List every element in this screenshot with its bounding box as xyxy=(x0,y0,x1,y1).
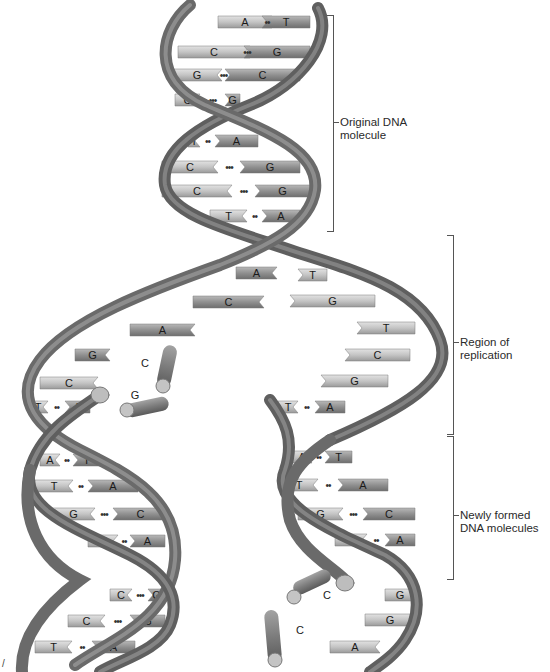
svg-text:G: G xyxy=(328,295,337,307)
original-base-1-right: G xyxy=(244,46,310,58)
svg-text:T: T xyxy=(383,322,390,334)
svg-text:C: C xyxy=(117,589,125,601)
hydrogen-bonds: •• xyxy=(304,402,311,413)
replication-left-base-1: C xyxy=(193,296,264,308)
newly-formed-bracket xyxy=(447,436,454,580)
svg-text:C: C xyxy=(259,69,267,81)
hydrogen-bonds: ••• xyxy=(136,590,145,601)
replication-left-base-0: A xyxy=(236,267,277,279)
free-nucleotide-label-2: C xyxy=(323,589,331,601)
hydrogen-bonds: •• xyxy=(252,211,259,222)
replication-left-base-3: G xyxy=(75,349,110,361)
svg-text:G: G xyxy=(266,161,275,173)
replication-right-base-2: T xyxy=(357,322,415,334)
svg-text:C: C xyxy=(210,46,218,58)
newly-formed-label-line2: DNA molecules xyxy=(460,522,539,535)
svg-text:T: T xyxy=(285,401,292,413)
free-nucleotide-c-1 xyxy=(156,344,178,393)
right-daughter-base-7-left: A xyxy=(330,641,380,653)
replication-left-base-2: A xyxy=(130,324,195,336)
svg-text:C: C xyxy=(65,377,73,389)
svg-text:A: A xyxy=(253,267,261,279)
hydrogen-bonds: ••• xyxy=(100,509,109,520)
replication-bracket-tick xyxy=(454,342,459,343)
original-base-1-left: C xyxy=(178,46,250,58)
svg-text:G: G xyxy=(386,614,395,626)
svg-text:T: T xyxy=(309,269,316,281)
free-nucleotide-label-1: G xyxy=(131,389,140,401)
svg-text:T: T xyxy=(51,480,58,492)
svg-text:C: C xyxy=(137,508,145,520)
right-daughter-base-4-right: A xyxy=(385,534,415,546)
svg-text:A: A xyxy=(109,480,117,492)
svg-text:G: G xyxy=(193,69,202,81)
newly-formed-bracket-tick xyxy=(454,515,459,516)
hydrogen-bonds: •• xyxy=(64,455,71,466)
svg-text:A: A xyxy=(326,401,334,413)
svg-text:C: C xyxy=(225,296,233,308)
hydrogen-bonds: •• xyxy=(78,481,85,492)
svg-text:G: G xyxy=(69,508,78,520)
svg-text:A: A xyxy=(396,534,404,546)
hydrogen-bonds: ••• xyxy=(225,162,234,173)
svg-text:C: C xyxy=(385,508,393,520)
svg-text:T: T xyxy=(283,16,290,28)
right-daughter-base-0-right: A xyxy=(315,401,345,413)
svg-text:G: G xyxy=(396,589,405,601)
replication-right-base-4: G xyxy=(321,375,388,387)
free-nucleotide-g-1 xyxy=(120,396,170,419)
replication-bracket xyxy=(447,235,454,435)
left-daughter-base-3-left: T xyxy=(35,480,73,492)
original-dna-label-line2: molecule xyxy=(340,129,407,142)
svg-text:C: C xyxy=(374,349,382,361)
corner-mark: / xyxy=(2,658,5,669)
replication-right-base-1: G xyxy=(290,295,375,307)
svg-text:A: A xyxy=(233,135,241,147)
original-base-6-right: G xyxy=(255,185,310,197)
right-daughter-base-2-right: A xyxy=(338,479,388,491)
svg-text:C: C xyxy=(193,185,201,197)
left-daughter-base-5-right: A xyxy=(130,535,165,547)
hydrogen-bonds: •• xyxy=(79,642,86,653)
left-daughter-base-7-left: C xyxy=(68,615,105,627)
svg-text:A: A xyxy=(359,479,367,491)
svg-text:A: A xyxy=(159,324,167,336)
original-dna-label-line1: Original DNA xyxy=(340,116,407,129)
original-bracket xyxy=(327,15,334,232)
svg-text:G: G xyxy=(350,375,359,387)
right-daughter-base-1-right: T xyxy=(325,451,352,463)
left-daughter-base-6-left: C xyxy=(110,589,132,601)
hydrogen-bonds: ••• xyxy=(114,616,123,627)
svg-text:A: A xyxy=(144,535,152,547)
svg-text:G: G xyxy=(278,185,287,197)
hydrogen-bonds: •• xyxy=(54,402,61,413)
free-nucleotide-label-0: C xyxy=(141,357,149,369)
svg-text:T: T xyxy=(50,641,57,653)
svg-text:G: G xyxy=(273,46,282,58)
original-base-5-right: G xyxy=(240,161,300,173)
svg-text:T: T xyxy=(335,451,342,463)
hydrogen-bonds: •• xyxy=(205,136,212,147)
svg-text:A: A xyxy=(351,641,359,653)
hydrogen-bonds: ••• xyxy=(349,509,358,520)
newly-formed-label: Newly formed DNA molecules xyxy=(460,509,539,535)
hydrogen-bonds: ••• xyxy=(240,186,249,197)
left-daughter-base-8-left: T xyxy=(35,641,72,653)
svg-text:A: A xyxy=(241,16,249,28)
svg-text:C: C xyxy=(83,615,91,627)
svg-text:T: T xyxy=(225,210,232,222)
replication-right-base-3: C xyxy=(345,349,410,361)
svg-text:G: G xyxy=(228,94,237,106)
newly-formed-label-line1: Newly formed xyxy=(460,509,539,522)
svg-text:A: A xyxy=(46,454,54,466)
free-nucleotide-c-3 xyxy=(264,609,282,667)
original-base-4-right: A xyxy=(215,135,258,147)
svg-text:C: C xyxy=(186,161,194,173)
left-daughter-base-0-left: C xyxy=(40,377,98,389)
region-of-replication-label: Region of replication xyxy=(460,336,512,362)
original-bracket-tick xyxy=(334,122,339,123)
free-nucleotide-label-3: C xyxy=(296,624,304,636)
right-daughter-base-3-right: C xyxy=(363,508,415,520)
svg-text:A: A xyxy=(277,210,285,222)
original-dna-label: Original DNA molecule xyxy=(340,116,407,142)
